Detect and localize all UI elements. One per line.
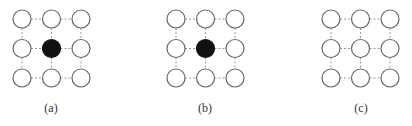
- empty-node: [197, 10, 215, 28]
- empty-node: [13, 40, 31, 58]
- empty-node: [43, 10, 61, 28]
- empty-node: [72, 69, 90, 87]
- empty-node: [322, 69, 340, 87]
- empty-node: [381, 69, 399, 87]
- filled-node: [43, 40, 61, 58]
- empty-node: [197, 69, 215, 87]
- empty-node: [167, 10, 185, 28]
- filled-node: [197, 40, 215, 58]
- empty-node: [322, 10, 340, 28]
- empty-node: [167, 69, 185, 87]
- empty-node: [352, 10, 370, 28]
- empty-node: [352, 69, 370, 87]
- empty-node: [322, 40, 340, 58]
- panel-label-a: (a): [31, 101, 71, 116]
- empty-node: [381, 10, 399, 28]
- panel-label-b: (b): [185, 101, 225, 116]
- empty-node: [13, 69, 31, 87]
- panel-label-c: (c): [341, 101, 381, 116]
- empty-node: [43, 69, 61, 87]
- empty-node: [72, 10, 90, 28]
- empty-node: [381, 40, 399, 58]
- empty-node: [226, 40, 244, 58]
- panel-c: [322, 10, 399, 87]
- empty-node: [167, 40, 185, 58]
- panel-b: [167, 10, 244, 87]
- empty-node: [13, 10, 31, 28]
- empty-node: [72, 40, 90, 58]
- empty-node: [352, 40, 370, 58]
- panel-a: [13, 10, 90, 87]
- empty-node: [226, 69, 244, 87]
- empty-node: [226, 10, 244, 28]
